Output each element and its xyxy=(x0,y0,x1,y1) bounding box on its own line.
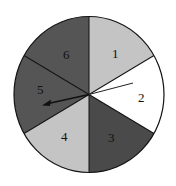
sector-label-2: 2 xyxy=(138,90,145,105)
sector-label-4: 4 xyxy=(61,129,68,144)
spinner-diagram: 1 2 3 4 5 6 xyxy=(0,0,176,186)
sector-label-5: 5 xyxy=(37,82,44,97)
sector-label-3: 3 xyxy=(108,130,115,145)
sector-label-6: 6 xyxy=(63,47,70,62)
sector-label-1: 1 xyxy=(112,46,119,61)
